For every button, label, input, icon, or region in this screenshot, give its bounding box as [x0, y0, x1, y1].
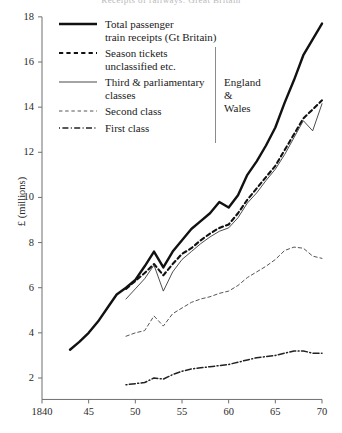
series-line [126, 247, 322, 336]
legend-swatch-solid-thick [58, 18, 98, 31]
y-tick-label: 6 [4, 283, 34, 294]
y-tick-label: 12 [4, 147, 34, 158]
legend-group-brace: England & Wales [215, 45, 310, 145]
legend-label-second-class: Second class [105, 105, 162, 118]
x-tick-label: 60 [209, 407, 249, 418]
brace-vertical-line [215, 47, 216, 143]
x-tick-label: 55 [162, 407, 202, 418]
legend-total-passenger: Total passenger train receipts (Gt Brita… [58, 18, 258, 43]
chart-figure: Receipts of railways: Great Britain £ (m… [0, 0, 342, 433]
legend-label-third-parliamentary: Third & parliamentary classes [105, 76, 205, 101]
y-tick-label: 16 [4, 57, 34, 68]
x-tick-label: 1840 [22, 407, 62, 418]
x-tick-label: 45 [69, 407, 109, 418]
y-tick-label: 4 [4, 328, 34, 339]
legend-label-total-passenger: Total passenger train receipts (Gt Brita… [105, 18, 217, 43]
legend-swatch-dash-dot [58, 122, 98, 135]
legend-swatch-solid-thin [58, 76, 98, 89]
series-line [126, 351, 322, 385]
legend-label-first-class: First class [105, 122, 149, 135]
x-tick-label: 65 [255, 407, 295, 418]
x-tick-label: 70 [302, 407, 342, 418]
legend-label-season-tickets: Season tickets unclassified etc. [105, 47, 176, 72]
y-tick-label: 10 [4, 192, 34, 203]
legend-swatch-dashed-thick [58, 47, 98, 60]
y-tick-label: 18 [4, 12, 34, 23]
y-tick-label: 8 [4, 238, 34, 249]
legend-swatch-dotted-thin [58, 105, 98, 118]
brace-label-england-wales: England & Wales [224, 76, 261, 115]
y-tick-label: 2 [4, 373, 34, 384]
x-tick-label: 50 [115, 407, 155, 418]
y-tick-label: 14 [4, 102, 34, 113]
